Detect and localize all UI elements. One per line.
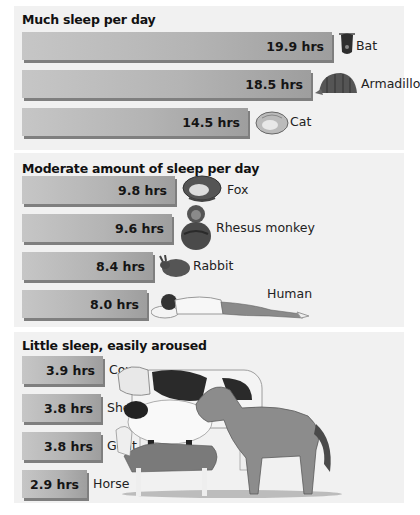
panel-much-sleep: Much sleep per day 19.9 hrsBat18.5 hrsAr… [14,6,404,150]
bar-value-label: 9.8 hrs [118,183,167,198]
panel-title: Little sleep, easily aroused [22,338,207,353]
category-label: Rhesus monkey [216,220,315,235]
bar-sheep: 3.8 hrs [22,394,101,422]
bar-horse: 2.9 hrs [22,470,87,498]
cat-icon [254,108,290,136]
farm-animals-illustration [112,360,352,500]
bar-value-label: 19.9 hrs [266,39,324,54]
bar-armadillo: 18.5 hrs [22,70,311,98]
bar-cat: 14.5 hrs [22,108,248,136]
bar-rhesus-monkey: 9.6 hrs [22,214,172,242]
fox-icon [181,174,223,204]
category-label: Human [267,286,312,301]
panel-title: Moderate amount of sleep per day [22,161,259,176]
bar-rabbit: 8.4 hrs [22,252,153,280]
category-label: Armadillo [361,76,420,91]
bar-value-label: 18.5 hrs [245,77,303,92]
category-label: Bat [356,38,377,53]
bar-value-label: 9.6 hrs [115,221,164,236]
bar-value-label: 3.8 hrs [44,439,93,454]
bar-value-label: 2.9 hrs [30,477,79,492]
bar-fox: 9.8 hrs [22,176,175,204]
bar-value-label: 8.4 hrs [96,259,145,274]
bar-value-label: 3.9 hrs [46,363,95,378]
bar-value-label: 14.5 hrs [182,115,240,130]
panel-moderate-sleep: Moderate amount of sleep per day 9.8 hrs… [14,153,404,327]
category-label: Rabbit [193,258,233,273]
bar-human: 8.0 hrs [22,290,147,318]
category-label: Fox [227,182,248,197]
bar-bat: 19.9 hrs [22,32,332,60]
bar-value-label: 3.8 hrs [44,401,93,416]
category-label: Cat [290,114,311,129]
bar-value-label: 8.0 hrs [90,297,139,312]
bar-cow: 3.9 hrs [22,356,103,384]
armadillo-icon [315,69,359,99]
rabbit-icon [159,255,191,277]
panel-title: Much sleep per day [22,12,155,27]
bat-icon [338,32,356,56]
monkey-icon [178,204,214,252]
bar-goat: 3.8 hrs [22,432,101,460]
horse-icon [196,387,331,494]
